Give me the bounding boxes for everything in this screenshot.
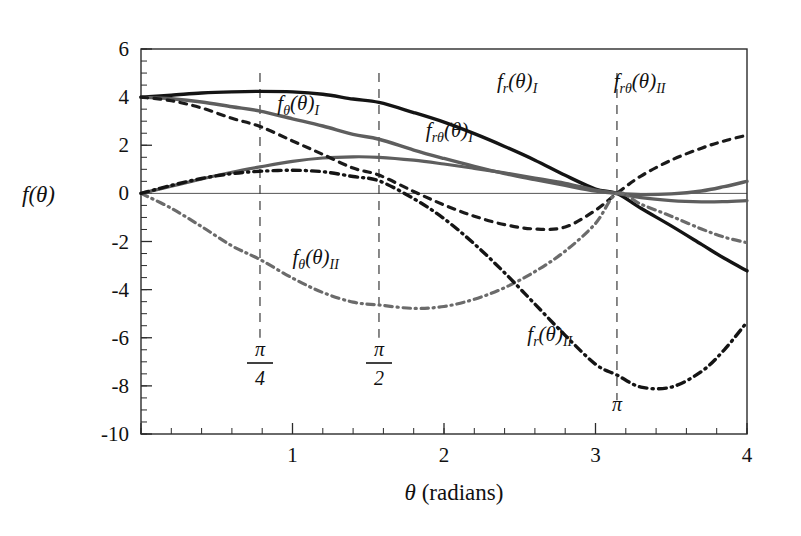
y-tick-label: -2 [112, 230, 130, 254]
x-tick-label: 1 [287, 443, 298, 467]
y-tick-label: -6 [112, 326, 130, 350]
fraction-numerator: π [255, 338, 266, 360]
annotation-pi: π [612, 393, 623, 415]
fraction-denominator: 4 [255, 367, 265, 389]
x-tick-label: 3 [590, 443, 601, 467]
y-tick-label: -10 [101, 422, 129, 446]
x-tick-label: 4 [742, 443, 753, 467]
y-tick-label: 6 [119, 37, 130, 61]
fraction-denominator: 2 [374, 367, 384, 389]
y-tick-label: 0 [119, 181, 130, 205]
y-tick-label: -4 [112, 278, 130, 302]
y-tick-label: -8 [112, 374, 130, 398]
y-tick-label: 2 [119, 133, 130, 157]
y-axis-label: f(θ) [22, 182, 55, 207]
figure-background [0, 0, 801, 536]
chart-figure: 1234 6420-2-4-6-8-10 fr(θ)Ifθ(θ)Ifrθ(θ)I… [0, 0, 801, 536]
pi-text: π [612, 393, 623, 415]
x-tick-label: 2 [439, 443, 450, 467]
fraction-numerator: π [374, 338, 385, 360]
x-axis-label: θ (radians) [405, 480, 504, 505]
y-tick-label: 4 [119, 85, 130, 109]
